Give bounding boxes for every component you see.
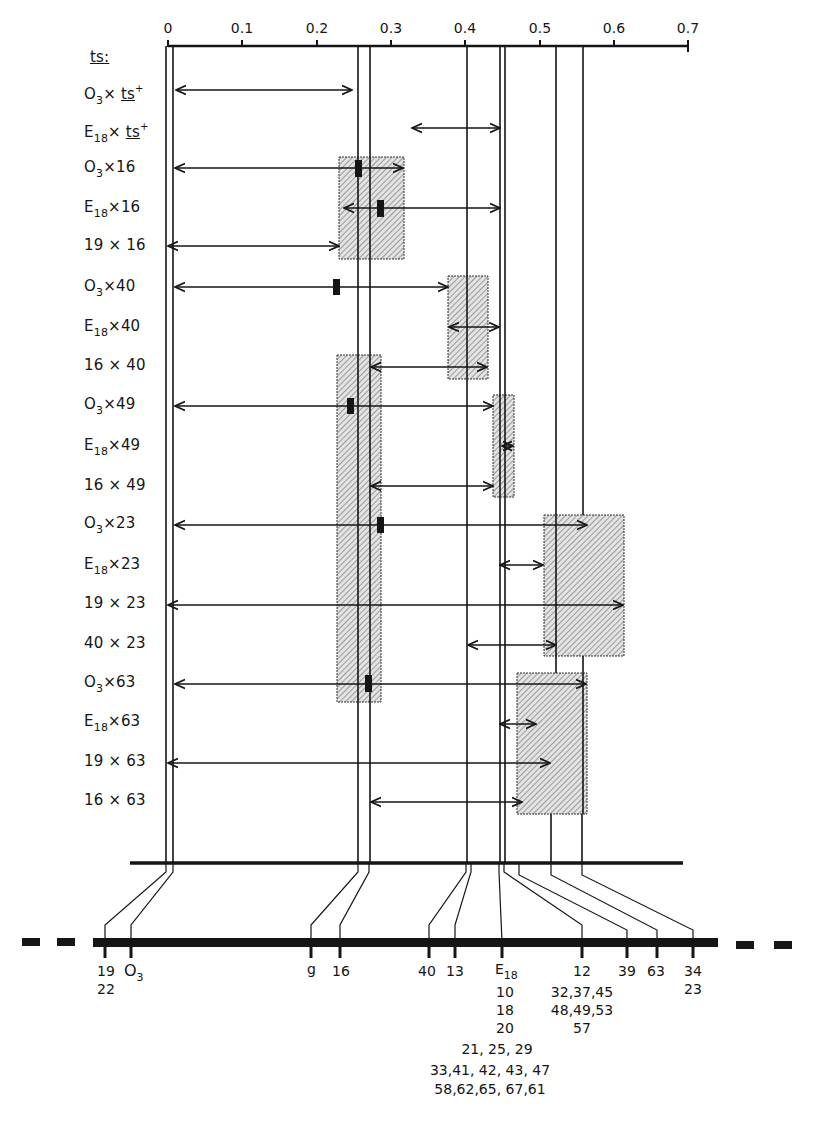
row-label: 19 × 16 <box>84 236 146 254</box>
row-label: O3× ts+ <box>84 80 144 110</box>
map-label-e18: E18 <box>495 960 518 985</box>
row-label: 16 × 40 <box>84 356 146 374</box>
map-label-21-25-29: 21, 25, 29 <box>461 1040 532 1058</box>
map-label-23: 23 <box>684 980 702 998</box>
header-label: ts: <box>90 48 109 66</box>
map-label-33-47: 33,41, 42, 43, 47 <box>430 1061 550 1079</box>
map-label-13: 13 <box>446 962 464 980</box>
map-connectors <box>105 863 693 942</box>
axis-tick-label: 0.1 <box>231 20 253 36</box>
row-label: 40 × 23 <box>84 634 146 652</box>
row-label: E18× ts+ <box>84 118 149 148</box>
map-label-19: 19 <box>97 962 115 980</box>
map-label-16: 16 <box>332 962 350 980</box>
map-label-40: 40 <box>418 962 436 980</box>
axis-tick-label: 0.2 <box>306 20 328 36</box>
map-label-58-61: 58,62,65, 67,61 <box>434 1080 545 1098</box>
row-label: 19 × 63 <box>84 752 146 770</box>
axis-tick-label: 0.6 <box>603 20 625 36</box>
box-49-23 <box>337 355 381 702</box>
row-label: E18×23 <box>84 555 140 580</box>
map-label-o3: O3 <box>124 962 144 987</box>
map-label-18: 18 <box>496 1001 514 1019</box>
axis-tick-label: 0.3 <box>380 20 402 36</box>
row-label: O3×23 <box>84 514 136 539</box>
row-label: O3×40 <box>84 277 136 302</box>
map-label-20: 20 <box>496 1019 514 1037</box>
chromosome-map <box>22 938 792 958</box>
axis-tick-label: 0.7 <box>677 20 699 36</box>
axis-tick-label: 0 <box>164 20 173 36</box>
map-label-g: g <box>307 960 316 978</box>
row-label: E18×49 <box>84 436 140 461</box>
row-label: O3×16 <box>84 158 136 183</box>
row-label: E18×40 <box>84 317 140 342</box>
map-label-34: 34 <box>684 962 702 980</box>
map-label-22: 22 <box>97 980 115 998</box>
row-label: E18×63 <box>84 712 140 737</box>
map-label-39: 39 <box>618 962 636 980</box>
top-axis <box>168 40 688 52</box>
row-label: 19 × 23 <box>84 594 146 612</box>
map-label-48-49-53: 48,49,53 <box>551 1001 613 1019</box>
axis-tick-label: 0.5 <box>529 20 551 36</box>
axis-tick-label: 0.4 <box>454 20 476 36</box>
row-label: O3×63 <box>84 673 136 698</box>
row-label: 16 × 49 <box>84 476 146 494</box>
map-label-12: 12 <box>573 962 591 980</box>
map-label-57: 57 <box>573 1019 591 1037</box>
map-label-63: 63 <box>647 962 665 980</box>
row-label: 16 × 63 <box>84 791 146 809</box>
row-label: O3×49 <box>84 395 136 420</box>
map-label-10: 10 <box>496 983 514 1001</box>
box-63 <box>517 673 587 814</box>
row-label: E18×16 <box>84 198 140 223</box>
map-label-32-37-45: 32,37,45 <box>551 983 613 1001</box>
